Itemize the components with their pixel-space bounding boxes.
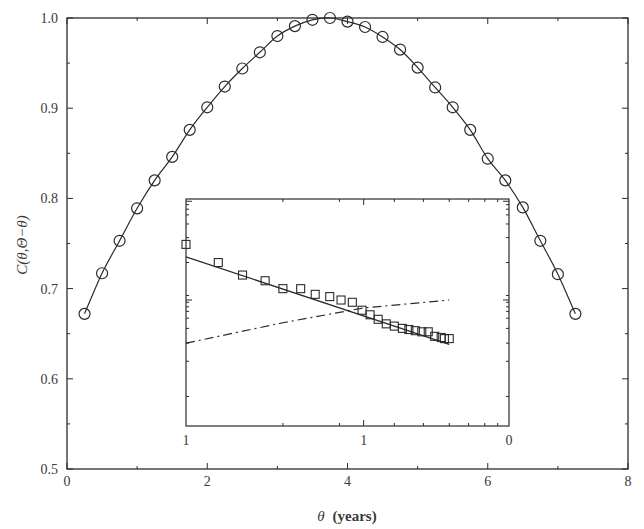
y-tick-label: 0.9 <box>41 101 59 116</box>
y-tick-label: 0.6 <box>41 372 59 387</box>
y-tick-label: 0.8 <box>41 191 59 206</box>
x-axis-label-symbol: θ <box>317 508 325 524</box>
x-axis-label-units: (years) <box>332 508 376 525</box>
x-tick-label: 6 <box>484 474 491 489</box>
x-tick-label: 4 <box>344 474 351 489</box>
inset-x-tick-label: 1 <box>360 433 367 448</box>
x-tick-label: 0 <box>64 474 71 489</box>
y-tick-label: 0.5 <box>41 462 59 477</box>
chart: 024680.50.60.70.80.91.0 110 θ (years) C(… <box>0 0 644 529</box>
y-axis-label: C(θ,Θ−θ) <box>14 215 31 274</box>
inset-frame <box>186 199 509 426</box>
x-tick-label: 8 <box>625 474 632 489</box>
inset-x-tick-label: 1 <box>183 433 190 448</box>
inset-x-tick-label: 0 <box>506 433 513 448</box>
y-tick-label: 0.7 <box>41 282 59 297</box>
x-axis-label: θ (years) <box>317 508 376 525</box>
y-tick-label: 1.0 <box>41 11 59 26</box>
inset-plot: 110 <box>182 199 513 448</box>
x-tick-label: 2 <box>204 474 211 489</box>
